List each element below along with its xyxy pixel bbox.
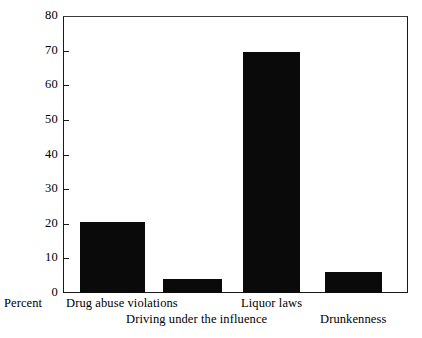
plot-area-frame — [63, 16, 408, 293]
y-axis-tick — [63, 120, 69, 121]
y-axis-tick — [63, 155, 69, 156]
y-axis-tick-label: 60 — [4, 78, 58, 90]
y-axis-tick — [63, 258, 69, 259]
y-axis-title: Percent — [4, 296, 42, 310]
y-axis-tick-label-wrap: 40 — [0, 148, 58, 160]
y-axis-tick-label: 30 — [4, 182, 58, 194]
y-axis-tick-label-wrap: 30 — [0, 182, 58, 194]
y-axis-tick-label: 50 — [4, 113, 58, 125]
x-axis-category-label: Drunkenness — [320, 312, 386, 326]
y-axis-tick-label-wrap: 50 — [0, 113, 58, 125]
y-axis-tick-label-wrap: 10 — [0, 251, 58, 263]
y-axis-tick — [63, 224, 69, 225]
bar-chart: 01020304050607080 Percent Drug abuse vio… — [0, 0, 422, 338]
x-axis-category-label: Drug abuse violations — [66, 296, 178, 310]
y-axis-tick-label: 40 — [4, 148, 58, 160]
x-axis-category-label: Liquor laws — [241, 296, 302, 310]
y-axis-tick-label: 70 — [4, 44, 58, 56]
y-axis-tick-label-wrap: 80 — [0, 9, 58, 21]
y-axis-tick-label: 20 — [4, 217, 58, 229]
y-axis-tick-label: 80 — [4, 9, 58, 21]
y-axis-tick — [63, 51, 69, 52]
y-axis-tick-label: 10 — [4, 251, 58, 263]
y-axis-tick — [63, 189, 69, 190]
y-axis-tick-label-wrap: 20 — [0, 217, 58, 229]
y-axis-tick — [63, 85, 69, 86]
y-axis-tick-label-wrap: 70 — [0, 44, 58, 56]
x-axis-category-label: Driving under the influence — [126, 312, 267, 326]
y-axis-tick-label-wrap: 60 — [0, 78, 58, 90]
